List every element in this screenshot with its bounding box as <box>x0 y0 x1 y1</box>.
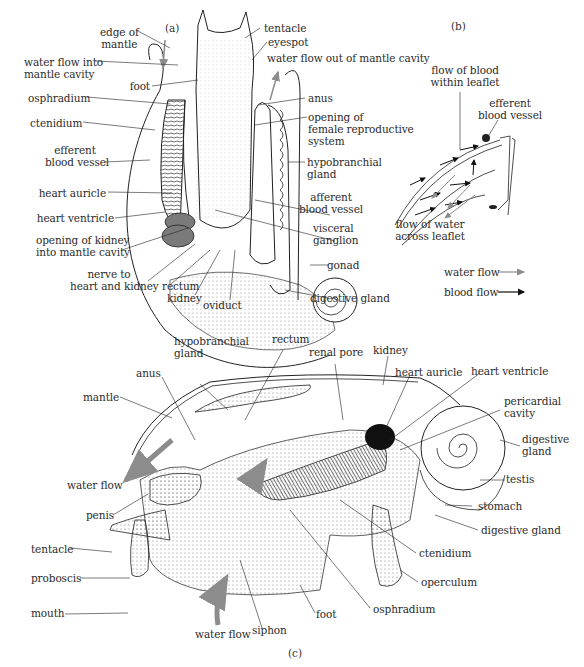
label-anus-a: anus <box>308 92 333 104</box>
label-kidney-a: kidney <box>167 292 202 304</box>
label-stomach: stomach <box>478 500 522 512</box>
label-mouth: mouth <box>31 607 65 619</box>
label-rectum-c: rectum <box>272 333 309 345</box>
label-water-flow-out-of-mantle-cavity: water flow out of mantle cavity <box>267 52 430 64</box>
label-opening-of-kidney: opening of kidneyinto mantle cavity <box>36 234 130 258</box>
label-efferent-blood-vessel-a: efferentblood vessel <box>45 144 105 168</box>
label-flow-of-water-across-leaflet: flow of wateracross leaflet <box>390 218 470 242</box>
label-testis: testis <box>506 473 534 485</box>
label-eyespot: eyespot <box>268 36 308 48</box>
label-ctenidium-a: ctenidium <box>30 117 82 129</box>
label-heart-auricle-c: heart auricle <box>395 366 462 378</box>
label-pericardial-cavity: pericardialcavity <box>504 395 561 419</box>
label-heart-ventricle-a: heart ventricle <box>30 212 114 224</box>
label-tentacle-c: tentacle <box>31 543 73 555</box>
label-heart-auricle-a: heart auricle <box>30 187 106 199</box>
label-digestive-gland-a: digestive gland <box>310 292 390 304</box>
label-efferent-blood-vessel-b: efferentblood vessel <box>475 97 545 121</box>
label-proboscis: proboscis <box>31 572 81 584</box>
label-tentacle-a: tentacle <box>264 22 306 34</box>
label-foot-c: foot <box>316 608 336 620</box>
label-opening-of-female-reproductive-system: opening offemale reproductivesystem <box>308 111 414 147</box>
label-water-flow-c2: water flow <box>195 628 251 640</box>
label-anus-c: anus <box>136 367 161 379</box>
label-ctenidium-c: ctenidium <box>419 547 471 559</box>
panel-label-b: (b) <box>451 20 466 32</box>
label-hypobranchial-gland-c: hypobranchialgland <box>174 335 249 359</box>
label-oviduct: oviduct <box>203 299 242 311</box>
label-digestive-gland-c2: digestive gland <box>481 524 561 536</box>
label-rectum-a: rectum <box>162 280 199 292</box>
label-operculum: operculum <box>421 576 477 588</box>
label-mantle: mantle <box>83 391 119 403</box>
legend-water-flow: water flow <box>444 266 500 278</box>
label-kidney-c: kidney <box>373 344 408 356</box>
label-edge-of-mantle: edge ofmantle <box>100 26 139 50</box>
legend-blood-flow: blood flow <box>444 286 498 298</box>
panel-b-drawing <box>395 92 524 292</box>
label-osphradium-a: osphradium <box>28 92 86 104</box>
label-renal-pore: renal pore <box>309 346 363 358</box>
label-digestive-gland-c1: digestivegland <box>522 433 569 457</box>
label-water-flow-c1: water flow <box>67 479 123 491</box>
panel-label-c: (c) <box>288 647 302 659</box>
label-afferent-blood-vessel: afferentblood vessel <box>296 191 366 215</box>
label-hypobranchial-gland-a: hypobranchialgland <box>307 156 382 180</box>
label-visceral-ganglion: visceralganglion <box>313 222 358 246</box>
label-water-flow-into-mantle-cavity: water flow intomantle cavity <box>24 56 94 80</box>
label-nerve-to-heart-and-kidney: nerve toheart and kidney <box>70 268 148 292</box>
label-foot-a: foot <box>120 80 150 92</box>
label-siphon: siphon <box>252 624 287 636</box>
panel-label-a: (a) <box>165 22 179 34</box>
label-penis: penis <box>86 509 114 521</box>
label-osphradium-c: osphradium <box>373 603 435 615</box>
label-gonad: gonad <box>327 259 359 271</box>
label-heart-ventricle-c: heart ventricle <box>471 365 548 377</box>
label-flow-of-blood-within-leaflet: flow of bloodwithin leaflet <box>425 64 505 88</box>
